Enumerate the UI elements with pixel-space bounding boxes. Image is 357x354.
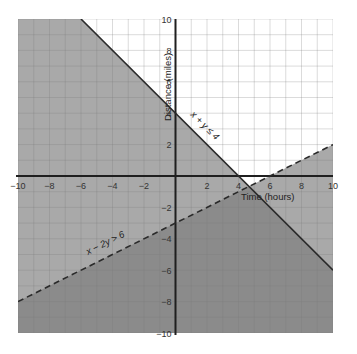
x-tick-label: 6 (267, 181, 272, 191)
x-tick-label: 10 (328, 181, 338, 191)
y-tick-label: 10 (161, 15, 171, 25)
y-tick-label: −4 (161, 234, 171, 244)
x-tick-label: 4 (236, 181, 241, 191)
x-tick-label: −4 (107, 181, 117, 191)
x-tick-label: 8 (299, 181, 304, 191)
x-tick-label: −6 (76, 181, 86, 191)
x-tick-label: 2 (204, 181, 209, 191)
y-tick-label: −2 (161, 203, 171, 213)
x-tick-label: −2 (139, 181, 149, 191)
x-tick-label: −8 (44, 181, 54, 191)
y-axis-label: Distance (miles) (162, 53, 173, 121)
x-tick-label: −10 (10, 181, 25, 191)
y-tick-label: −6 (161, 266, 171, 276)
y-tick-label: 2 (166, 140, 171, 150)
x-axis-label: Time (hours) (241, 191, 295, 202)
y-tick-label: −10 (156, 329, 171, 339)
y-tick-label: −8 (161, 297, 171, 307)
inequality-graph: −10−8−6−4−2246810108642−2−4−6−8−10 Time … (0, 0, 357, 354)
